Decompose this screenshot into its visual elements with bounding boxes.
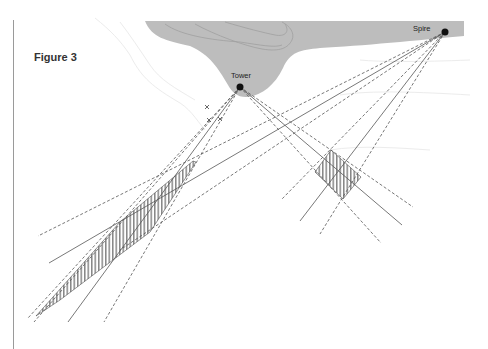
- tower-point: [237, 84, 244, 91]
- cross-marker-icon: [207, 118, 211, 122]
- cross-marker-icon: [205, 105, 209, 109]
- tower-bearing-lines: [28, 87, 413, 322]
- cross-markers: [205, 105, 222, 122]
- tower-label: Tower: [231, 71, 252, 80]
- hatched-area-left: [36, 161, 196, 316]
- hatched-area-right: [315, 150, 361, 199]
- spire-point: [442, 29, 449, 36]
- spire-label: Spire: [413, 24, 431, 33]
- map-diagram: Tower Spire: [0, 0, 488, 349]
